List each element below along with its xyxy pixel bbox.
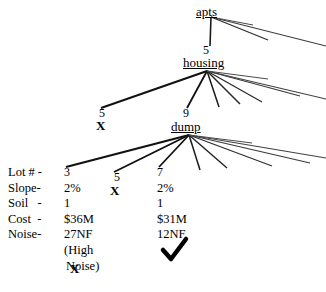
- housing-edge-group: [101, 71, 326, 108]
- edge-cost-apts-housing: 5: [203, 44, 209, 56]
- attribute-value-lot7-soil: 1: [157, 196, 163, 212]
- edge-housing-branch-e: [207, 71, 326, 99]
- attribute-value-lot3-noise: 27NF: [64, 227, 92, 243]
- edge-cost-dump-lot5: 5: [114, 171, 120, 183]
- attribute-row-label-slope: Slope-: [8, 181, 41, 197]
- attribute-row-label-cost: Cost -: [8, 212, 41, 228]
- reject-mark-lot5: X: [110, 184, 119, 197]
- attribute-note-lot3-line2: Noise): [66, 259, 99, 275]
- attribute-value-lot7-slope: 2%: [157, 181, 174, 197]
- edge-dump-to-lot3: [66, 135, 189, 167]
- edge-dump-branch-c: [189, 135, 272, 166]
- edge-cost-dump-lot3: 3: [64, 166, 70, 178]
- node-dump[interactable]: dump: [171, 120, 201, 133]
- attribute-row-label-lot: Lot # -: [8, 165, 42, 181]
- attribute-value-lot3-cost: $36M: [64, 212, 94, 228]
- edge-housing-to-left-option: [101, 71, 207, 108]
- edge-apts-to-housing: [210, 17, 211, 46]
- apts-edge-group: [210, 17, 326, 46]
- edge-apts-branch-b: [211, 17, 326, 46]
- edge-cost-dump-lot7: 7: [157, 166, 163, 178]
- attribute-value-lot3-slope: 2%: [64, 181, 81, 197]
- edge-apts-branch-a: [211, 17, 268, 40]
- attribute-note-lot3-line1: (High: [64, 243, 93, 259]
- attribute-value-lot7-noise: 12NF: [157, 227, 185, 243]
- dump-edge-group: [66, 135, 326, 172]
- edge-cost-housing-dump: 9: [183, 107, 189, 119]
- edge-dump-to-lot5: [114, 135, 189, 172]
- edge-dump-branch-e: [189, 135, 326, 158]
- attribute-row-label-soil: Soil -: [8, 196, 42, 212]
- edge-apts-branch-c: [211, 17, 253, 25]
- attribute-row-label-noise: Noise-: [8, 227, 41, 243]
- tree-edges-layer: [0, 0, 326, 292]
- node-apts[interactable]: apts: [196, 5, 217, 18]
- node-housing[interactable]: housing: [183, 56, 224, 69]
- reject-mark-housing-left: X: [96, 119, 105, 132]
- attribute-value-lot7-cost: $31M: [157, 212, 187, 228]
- decision-tree-diagram: apts housing dump 5 5 9 3 5 7 X X X Lot …: [0, 0, 326, 292]
- edge-dump-branch-d: [189, 135, 310, 163]
- attribute-value-lot3-soil: 1: [64, 196, 70, 212]
